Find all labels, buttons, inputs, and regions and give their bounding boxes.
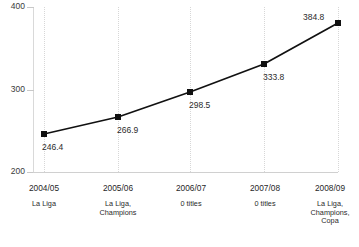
data-point-marker-2[interactable]: [115, 114, 121, 120]
x-category-titles-5: La Liga,Champions,Copa: [301, 200, 359, 226]
x-category-1: 2004/05 La Liga: [7, 183, 81, 209]
data-label-4: 333.8: [263, 73, 284, 82]
data-label-1: 246.4: [42, 143, 63, 152]
x-category-titles-2: La Liga,Champions: [81, 200, 155, 217]
data-point-marker-5[interactable]: [335, 20, 341, 26]
x-category-3: 2006/07 0 titles: [154, 183, 228, 209]
x-category-season-2: 2005/06: [81, 183, 155, 193]
data-label-3: 298.5: [189, 101, 210, 110]
x-category-season-5: 2008/09: [301, 183, 359, 193]
line-chart: 400 300 200 246.4 266.9 298.5 333.8 384.…: [0, 0, 359, 247]
x-category-season-4: 2007/08: [228, 183, 302, 193]
data-point-marker-3[interactable]: [187, 89, 193, 95]
x-category-titles-3: 0 titles: [154, 200, 228, 209]
x-category-5: 2008/09 La Liga,Champions,Copa: [301, 183, 359, 226]
x-category-season-3: 2006/07: [154, 183, 228, 193]
x-category-titles-1: La Liga: [7, 200, 81, 209]
data-label-2: 266.9: [117, 126, 138, 135]
data-label-5: 384.8: [303, 13, 324, 22]
x-category-season-1: 2004/05: [7, 183, 81, 193]
x-category-4: 2007/08 0 titles: [228, 183, 302, 209]
x-category-2: 2005/06 La Liga,Champions: [81, 183, 155, 217]
x-category-titles-4: 0 titles: [228, 200, 302, 209]
data-point-marker-1[interactable]: [41, 131, 47, 137]
data-point-marker-4[interactable]: [261, 61, 267, 67]
